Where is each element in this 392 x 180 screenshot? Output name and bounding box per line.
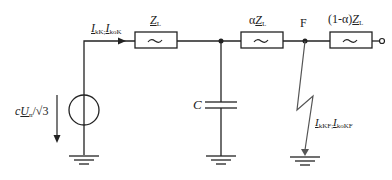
z1-label: ZL	[150, 14, 161, 28]
current-sub: koK	[110, 28, 122, 36]
fault-node-text: F	[300, 16, 307, 30]
capacitor-label: C	[193, 98, 202, 111]
z2-label: αZL	[249, 14, 266, 28]
z-sub: L	[359, 19, 363, 27]
z3-label: (1-α)ZL	[328, 13, 363, 27]
ground-icon-capacitor	[206, 156, 236, 164]
impedance-zl-box	[135, 32, 177, 48]
voltage-var: U	[20, 104, 29, 118]
ground-icon-fault	[290, 157, 320, 165]
capacitor-icon	[205, 41, 237, 156]
source-voltage-label: cUn/√3	[15, 105, 48, 119]
main-wire	[84, 41, 379, 155]
voltage-arrow-icon	[54, 135, 61, 143]
impedance-one-minus-alpha-zl-box	[330, 32, 372, 48]
capacitor-text: C	[193, 97, 202, 112]
circuit-diagram	[0, 0, 392, 180]
terminal-icon	[380, 39, 385, 44]
fault-current-sub: koKF	[337, 122, 353, 130]
fault-arrow-icon	[301, 149, 309, 156]
fault-current-sub: kKF	[319, 122, 331, 130]
z-sub: L	[262, 20, 266, 28]
fault-node-label: F	[300, 17, 307, 29]
fault-current-label: IkKF;IkoKF	[315, 117, 353, 130]
fault-lightning-icon	[297, 41, 313, 150]
z-var: Z	[255, 13, 262, 27]
current-sub: kK	[95, 28, 104, 36]
impedance-alpha-zl-box	[241, 32, 283, 48]
one-minus-alpha-prefix: (1-α)	[328, 12, 352, 26]
main-current-label: IkK;IkoK	[91, 22, 122, 36]
sqrt3-suffix: /√3	[33, 104, 49, 118]
z-var: Z	[352, 12, 359, 26]
z-var: Z	[150, 13, 157, 27]
z-sub: L	[157, 20, 161, 28]
ground-icon-source	[69, 156, 99, 164]
current-arrow-icon	[118, 38, 126, 45]
